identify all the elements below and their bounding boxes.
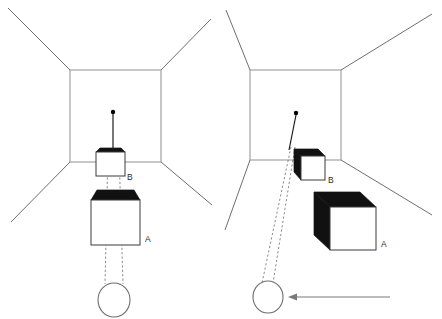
cube-a-label-right: A <box>381 239 387 249</box>
ceiling-ray-left-upper-left <box>8 8 70 70</box>
floor-ray-left-lower-left <box>11 162 70 222</box>
target-ray-right <box>289 115 296 150</box>
target-dot-right <box>294 111 298 115</box>
cube-a-left-front-face <box>91 200 140 245</box>
cube-a-left <box>91 190 140 245</box>
cube-a-label-left: A <box>145 234 151 244</box>
floor-ray-right-lower-left <box>225 160 250 230</box>
observer-eye-left <box>98 283 130 317</box>
cube-b-right-front-face <box>301 156 325 180</box>
cube-a-right-front-face <box>330 207 376 250</box>
floor-ray-left-lower-right <box>161 162 212 205</box>
cube-b-label-left: B <box>127 172 133 182</box>
sight-line-right-2 <box>273 147 295 283</box>
cube-b-left <box>96 148 125 176</box>
cube-b-left-top-face <box>96 148 125 152</box>
sight-line-right-1 <box>262 147 291 283</box>
cube-b-label-right: B <box>328 175 334 185</box>
figure-canvas: B A <box>0 0 442 319</box>
ceiling-ray-right-upper-right <box>341 14 432 70</box>
ceiling-ray-left-upper-right <box>161 19 211 70</box>
oblique-view-panel: B A <box>225 10 432 313</box>
ceiling-ray-right-upper-left <box>226 10 250 70</box>
motion-arrow-head <box>288 294 297 301</box>
observer-eye-right <box>253 281 283 313</box>
cube-a-right <box>314 192 376 250</box>
frontal-view-panel: B A <box>8 8 212 317</box>
cube-a-left-top-face <box>91 190 140 200</box>
cube-b-right <box>294 149 325 180</box>
motion-arrow-right <box>288 294 390 301</box>
sight-lines-right <box>262 147 295 283</box>
target-dot-left <box>111 110 115 114</box>
figure-root: B A <box>0 0 442 319</box>
cube-b-left-front-face <box>96 152 125 176</box>
